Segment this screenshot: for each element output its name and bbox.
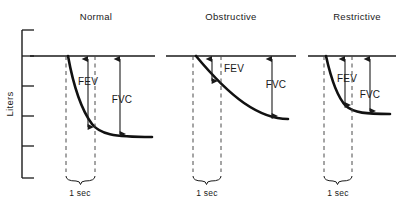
time-label-normal: 1 sec bbox=[69, 188, 91, 198]
time-label-restrictive: 1 sec bbox=[327, 188, 349, 198]
panel-obstructive: Obstructive FEV FVC 1 sec bbox=[166, 11, 296, 198]
fev-label-normal: FEV bbox=[78, 76, 98, 87]
spirometry-curve-restrictive bbox=[326, 56, 390, 114]
y-axis-label: Liters bbox=[4, 91, 15, 116]
panel-title-normal: Normal bbox=[80, 11, 112, 22]
fev-label-restrictive: FEV bbox=[337, 73, 357, 84]
fev-label-obstructive: FEV bbox=[224, 63, 244, 74]
panel-restrictive: Restrictive FEV FVC 1 sec bbox=[308, 11, 396, 198]
one-second-brace-restrictive bbox=[324, 176, 352, 185]
fvc-label-restrictive: FVC bbox=[360, 89, 381, 100]
spirometry-svg: Liters Normal FEV FVC 1 sec Obstructive bbox=[0, 0, 413, 203]
panel-title-obstructive: Obstructive bbox=[205, 11, 256, 22]
time-label-obstructive: 1 sec bbox=[196, 188, 218, 198]
y-axis: Liters bbox=[4, 30, 34, 178]
fvc-label-obstructive: FVC bbox=[266, 79, 287, 90]
one-second-brace-obstructive bbox=[193, 176, 221, 185]
panel-normal: Normal FEV FVC 1 sec bbox=[30, 11, 155, 198]
one-second-brace-normal bbox=[66, 176, 95, 185]
panel-title-restrictive: Restrictive bbox=[333, 11, 381, 22]
spirometry-curve-normal bbox=[68, 56, 152, 137]
fvc-label-normal: FVC bbox=[112, 94, 133, 105]
spirometry-figure: Liters Normal FEV FVC 1 sec Obstructive bbox=[0, 0, 413, 203]
